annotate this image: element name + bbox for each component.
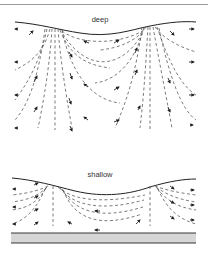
deep-flow-arrows	[15, 29, 194, 131]
deep-surface-line	[15, 22, 196, 35]
shallow-streamlines	[12, 186, 196, 226]
deep-panel	[15, 22, 196, 131]
shallow-surface-line	[12, 178, 196, 195]
shallow-panel	[11, 178, 196, 243]
seabed-sediment	[11, 233, 196, 243]
circulation-diagram	[0, 0, 208, 261]
deep-streamlines	[15, 27, 196, 130]
